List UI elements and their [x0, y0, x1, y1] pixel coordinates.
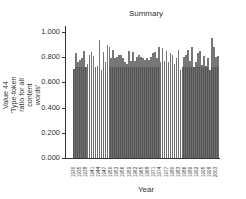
bar-top-segment: [191, 47, 193, 67]
y-tick: [62, 82, 65, 83]
y-tick: [62, 32, 65, 33]
x-tick-label: 1974: [157, 167, 162, 177]
x-tick-label: 1989: [188, 167, 193, 177]
x-axis-label: Year: [73, 185, 219, 194]
x-axis-line: [65, 158, 220, 159]
x-tick-label: 1965: [139, 167, 144, 177]
x-tick-label: 1944: [96, 167, 101, 177]
y-tick-label: 0.000: [28, 153, 60, 162]
x-tick-label: 2003: [213, 167, 218, 177]
y-tick: [62, 57, 65, 58]
x-tick-label: 1956: [120, 167, 125, 177]
plot-area: [73, 32, 219, 158]
x-tick-label: 1971: [151, 167, 156, 177]
y-tick-label: 0.600: [28, 77, 60, 86]
x-tick-label: 1980: [170, 167, 175, 177]
x-tick-label: 1947: [102, 167, 107, 177]
x-tick-label: 1953: [114, 167, 119, 177]
bar-top-segment: [207, 58, 209, 67]
y-tick: [62, 108, 65, 109]
x-tick-label: 1986: [182, 167, 187, 177]
x-tick-label: 1930: [71, 167, 76, 177]
bar-top-segment: [93, 56, 95, 67]
y-tick-label: 0.800: [28, 52, 60, 61]
y-tick-label: 0.200: [28, 128, 60, 137]
bar-top-segment: [217, 56, 219, 67]
x-tick-label: 1968: [145, 167, 150, 177]
chart-title: Summary: [73, 9, 219, 18]
bar-2003: [217, 56, 219, 158]
x-tick-label: 1977: [164, 167, 169, 177]
y-tick: [62, 133, 65, 134]
bar-top-segment: [83, 51, 85, 67]
x-tick-label: 1935: [77, 167, 82, 177]
bar-top-segment: [178, 50, 180, 68]
y-axis-line: [65, 26, 66, 158]
y-axis-label-container: Value 44 'Type-token ratio for all conte…: [2, 32, 42, 158]
y-tick-label: 1.000: [28, 27, 60, 36]
x-tick-label: 1998: [207, 167, 212, 177]
bar-top-segment: [99, 40, 101, 68]
x-tick-label: 1941: [90, 167, 95, 177]
x-tick-label: 1959: [127, 167, 132, 177]
x-tick-label: 1995: [201, 167, 206, 177]
x-tick-label: 1992: [194, 167, 199, 177]
x-tick-label: 1938: [83, 167, 88, 177]
x-tick-label: 1950: [108, 167, 113, 177]
x-tick-label: 1962: [133, 167, 138, 177]
y-tick-label: 0.400: [28, 103, 60, 112]
x-tick-label: 1983: [176, 167, 181, 177]
